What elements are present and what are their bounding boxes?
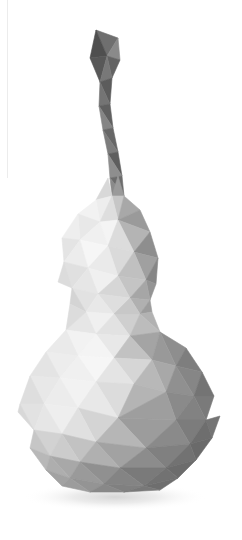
edge-artifact-line bbox=[7, 0, 8, 178]
render-canvas: Grayscale low-poly gourd with a bent dar… bbox=[0, 0, 242, 540]
low-poly-gourd-artwork bbox=[0, 0, 242, 540]
